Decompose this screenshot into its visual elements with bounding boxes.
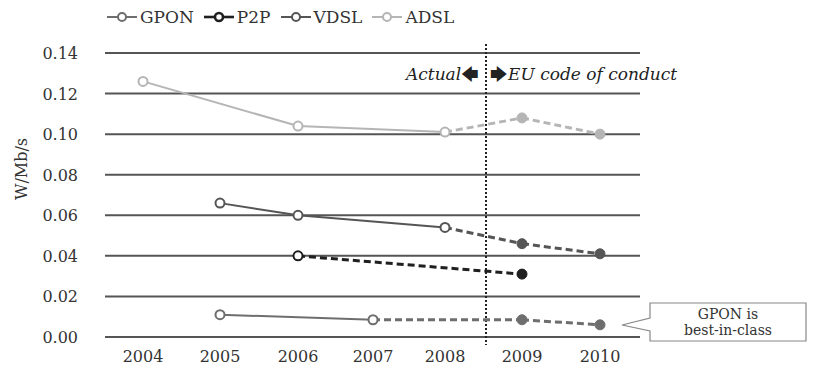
data-point-actual: [294, 251, 303, 260]
y-tick-label: 0.04: [42, 247, 78, 266]
series-segment: [445, 118, 522, 132]
x-tick-label: 2004: [123, 347, 164, 366]
y-tick-label: 0.14: [42, 44, 78, 63]
x-tick-label: 2010: [580, 347, 621, 366]
y-tick-label: 0.08: [42, 166, 78, 185]
data-point-projected: [595, 320, 605, 330]
series-gpon: [216, 310, 606, 330]
series-segment: [143, 81, 298, 126]
x-tick-label: 2008: [425, 347, 466, 366]
arrow-right-icon: 🡆: [490, 64, 508, 84]
data-point-actual: [139, 77, 148, 86]
y-axis-label: W/Mb/s: [12, 138, 31, 200]
x-tick-label: 2005: [200, 347, 241, 366]
callout-text: GPON is best-in-class: [650, 303, 806, 341]
y-tick-label: 0.10: [42, 125, 78, 144]
data-point-actual: [294, 122, 303, 131]
data-point-actual: [294, 211, 303, 220]
data-point-projected: [517, 239, 527, 249]
series-segment: [298, 215, 445, 227]
data-point-actual: [441, 223, 450, 232]
series-segment: [220, 203, 298, 215]
series-segment: [298, 126, 445, 132]
y-tick-label: 0.02: [42, 287, 78, 306]
eu-code-label: 🡆EU code of conduct: [490, 62, 677, 91]
series-segment: [522, 118, 600, 134]
data-point-projected: [595, 129, 605, 139]
series-segment: [298, 256, 522, 274]
series-segment: [522, 320, 600, 325]
arrow-left-icon: 🡄: [461, 64, 479, 84]
x-tick-label: 2009: [502, 347, 543, 366]
actual-label: Actual🡄: [406, 62, 479, 91]
data-point-projected: [595, 249, 605, 259]
data-point-projected: [517, 315, 527, 325]
data-point-actual: [369, 315, 378, 324]
y-tick-label: 0.00: [42, 328, 78, 347]
data-point-actual: [441, 128, 450, 137]
x-tick-label: 2006: [278, 347, 319, 366]
series-segment: [220, 315, 373, 320]
x-tick-label: 2007: [353, 347, 394, 366]
y-tick-label: 0.12: [42, 85, 78, 104]
data-point-projected: [517, 113, 527, 123]
series-segment: [522, 244, 600, 254]
y-tick-label: 0.06: [42, 206, 78, 225]
series-segment: [445, 227, 522, 243]
data-point-projected: [517, 269, 527, 279]
data-point-actual: [216, 199, 225, 208]
data-point-actual: [216, 310, 225, 319]
series-vdsl: [216, 199, 606, 259]
